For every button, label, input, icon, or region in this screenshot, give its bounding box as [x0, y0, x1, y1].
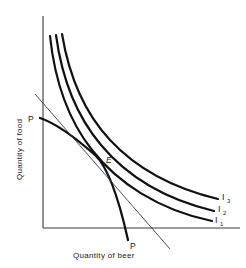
price-line-bottom-label: P: [130, 241, 136, 251]
x-axis-label: Quantity of beer: [73, 251, 135, 260]
y-axis-label: Quantity of food: [15, 119, 24, 180]
indifference-curve-figure: E P P I 3 I 2 I 1 Quantity of food Quant…: [0, 0, 246, 268]
equilibrium-label: E: [106, 155, 112, 165]
curve-label-i3-base: I: [222, 192, 225, 202]
price-line-top-label: P: [28, 114, 34, 124]
curve-label-i1-base: I: [215, 215, 218, 225]
figure-canvas: E P P I 3 I 2 I 1 Quantity of food Quant…: [0, 0, 246, 268]
curve-label-i2-base: I: [218, 204, 221, 214]
